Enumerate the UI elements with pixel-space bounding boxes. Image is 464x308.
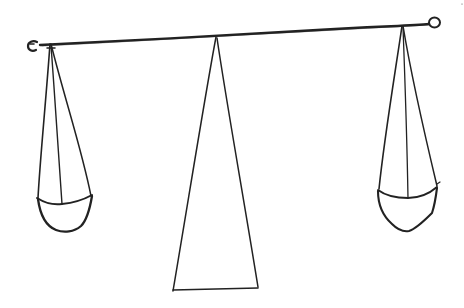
beam bbox=[40, 24, 429, 46]
right-pan bbox=[378, 26, 440, 231]
speck-mark bbox=[461, 3, 462, 4]
fulcrum-stand bbox=[173, 37, 258, 291]
left-pan bbox=[37, 44, 92, 232]
right-ring-icon bbox=[429, 18, 440, 28]
balance-scale-svg bbox=[0, 0, 464, 308]
balance-scale-drawing: Hand-drawn line sketch of a balance scal… bbox=[0, 0, 464, 308]
left-ring-icon bbox=[28, 41, 37, 51]
